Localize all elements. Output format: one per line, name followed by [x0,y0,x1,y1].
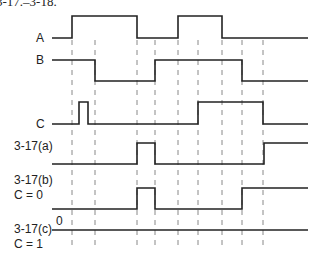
signal-a-waveform [52,16,308,38]
output-3-17b-waveform [52,188,308,209]
label-3-17b: 3-17(b) [14,173,53,187]
label-a: A [36,31,44,45]
label-3-17c-condition: C = 1 [14,237,43,251]
label-3-17b-condition: C = 0 [14,188,43,202]
label-3-17c: 3-17(c) [14,222,52,236]
output-3-17a-waveform [52,143,308,164]
timing-diagram: A B C 3-17(a) 3-17(b) C = 0 3-17(c) C = … [0,0,320,258]
signal-b-waveform [52,60,308,81]
label-zero: 0 [56,214,63,228]
signal-c-waveform [52,102,308,124]
label-3-17a: 3-17(a) [14,139,53,153]
label-c: C [36,117,45,131]
label-b: B [36,53,44,67]
dashed-guides [72,40,263,246]
